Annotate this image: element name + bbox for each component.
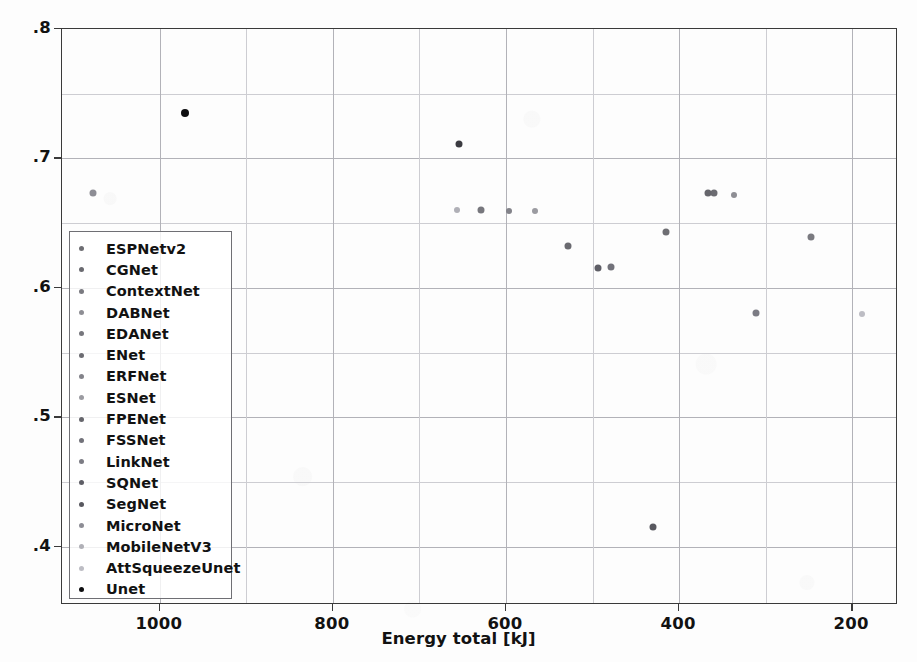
- legend-marker-icon: [79, 395, 84, 400]
- data-point: [454, 207, 460, 213]
- legend-item[interactable]: Unet: [70, 579, 231, 600]
- legend-marker-icon: [79, 289, 84, 294]
- x-axis-tick-label: 200: [811, 614, 891, 633]
- legend-marker-icon: [79, 480, 84, 485]
- legend-item[interactable]: FSSNet: [70, 430, 231, 451]
- legend-item-label: FPENet: [106, 411, 166, 427]
- y-axis-tick-mark: [54, 157, 61, 158]
- legend-marker-icon: [79, 438, 84, 443]
- x-axis-tick-label: 1000: [119, 614, 199, 633]
- gridline-vertical: [506, 29, 507, 603]
- legend-item-label: ENet: [106, 347, 145, 363]
- x-axis-tick-mark: [332, 604, 333, 611]
- legend-marker-icon: [79, 353, 84, 358]
- y-axis-tick-label: .8: [17, 18, 51, 37]
- legend-marker-icon: [79, 566, 84, 571]
- legend-item[interactable]: SQNet: [70, 472, 231, 493]
- legend-item[interactable]: LinkNet: [70, 451, 231, 472]
- data-point: [477, 206, 484, 213]
- y-axis-tick-mark: [54, 416, 61, 417]
- x-axis-tick-label: 400: [638, 614, 718, 633]
- legend-item-label: MobileNetV3: [106, 539, 212, 555]
- legend-item[interactable]: ERFNet: [70, 366, 231, 387]
- legend-marker-icon: [79, 523, 84, 528]
- legend-item-label: ESPNetv2: [106, 241, 186, 257]
- x-axis-tick-mark: [851, 604, 852, 611]
- x-axis-tick-label: 800: [292, 614, 372, 633]
- y-axis-tick-label: .5: [17, 406, 51, 425]
- legend-item-label: EDANet: [106, 326, 169, 342]
- legend-box[interactable]: ESPNetv2CGNetContextNetDABNetEDANetENetE…: [69, 231, 232, 599]
- legend-item[interactable]: ContextNet: [70, 281, 231, 302]
- legend-item[interactable]: EDANet: [70, 323, 231, 344]
- legend-item[interactable]: ESNet: [70, 387, 231, 408]
- legend-item-label: Unet: [106, 581, 145, 597]
- data-point: [90, 190, 97, 197]
- legend-item[interactable]: MicroNet: [70, 515, 231, 536]
- gridline-vertical: [419, 29, 420, 603]
- legend-item-label: SQNet: [106, 475, 158, 491]
- legend-item-label: ERFNet: [106, 368, 166, 384]
- legend-marker-icon: [79, 459, 84, 464]
- y-axis-tick-mark: [54, 28, 61, 29]
- legend-item-label: FSSNet: [106, 432, 166, 448]
- legend-item[interactable]: CGNet: [70, 259, 231, 280]
- legend-item-label: MicroNet: [106, 518, 181, 534]
- legend-marker-icon: [79, 374, 84, 379]
- data-point: [731, 192, 737, 198]
- data-point: [181, 109, 189, 117]
- legend-item-label: CGNet: [106, 262, 158, 278]
- data-point: [532, 208, 538, 214]
- legend-marker-icon: [79, 246, 84, 251]
- x-axis-tick-mark: [159, 604, 160, 611]
- gridline-horizontal: [62, 158, 896, 159]
- y-axis-tick-label: .4: [17, 536, 51, 555]
- data-point: [753, 310, 760, 317]
- scatter-chart-figure: Dice Score Energy total [kJ] .8.7.6.5.41…: [0, 0, 917, 662]
- legend-marker-icon: [79, 331, 84, 336]
- gridline-vertical: [679, 29, 680, 603]
- legend-item[interactable]: DABNet: [70, 302, 231, 323]
- legend-item[interactable]: AttSqueezeUnet: [70, 557, 231, 578]
- legend-item-label: SegNet: [106, 496, 166, 512]
- data-point: [705, 190, 712, 197]
- data-point: [607, 263, 614, 270]
- gridline-vertical: [333, 29, 334, 603]
- data-point: [663, 228, 670, 235]
- gridline-vertical: [766, 29, 767, 603]
- gridline-vertical: [593, 29, 594, 603]
- y-axis-tick-label: .6: [17, 277, 51, 296]
- legend-marker-icon: [79, 310, 84, 315]
- legend-marker-icon: [79, 267, 84, 272]
- gridline-vertical: [852, 29, 853, 603]
- x-axis-tick-mark: [678, 604, 679, 611]
- data-point: [859, 311, 865, 317]
- legend-item-label: LinkNet: [106, 454, 170, 470]
- data-point: [456, 141, 463, 148]
- legend-item-label: ContextNet: [106, 283, 200, 299]
- gridline-horizontal: [62, 223, 896, 224]
- legend-item[interactable]: MobileNetV3: [70, 536, 231, 557]
- legend-marker-icon: [79, 502, 84, 507]
- x-axis-tick-mark: [505, 604, 506, 611]
- data-point: [650, 524, 657, 531]
- y-axis-tick-mark: [54, 287, 61, 288]
- data-point: [808, 234, 815, 241]
- legend-item-label: DABNet: [106, 305, 170, 321]
- data-point: [594, 265, 601, 272]
- legend-marker-icon: [79, 587, 84, 592]
- legend-item[interactable]: ENet: [70, 344, 231, 365]
- x-axis-tick-label: 600: [465, 614, 545, 633]
- gridline-horizontal: [62, 94, 896, 95]
- gridline-vertical: [246, 29, 247, 603]
- legend-item[interactable]: FPENet: [70, 408, 231, 429]
- y-axis-tick-mark: [54, 546, 61, 547]
- legend-item[interactable]: ESPNetv2: [70, 238, 231, 259]
- data-point: [565, 243, 572, 250]
- legend-item-label: AttSqueezeUnet: [106, 560, 240, 576]
- legend-marker-icon: [79, 417, 84, 422]
- legend-marker-icon: [79, 544, 84, 549]
- legend-item[interactable]: SegNet: [70, 494, 231, 515]
- y-axis-tick-label: .7: [17, 147, 51, 166]
- data-point: [506, 208, 512, 214]
